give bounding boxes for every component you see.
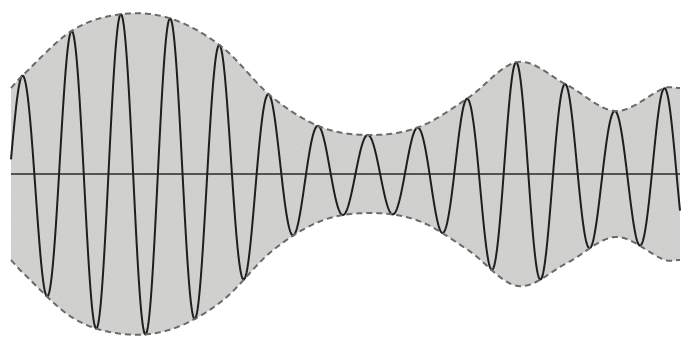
am-waveform-diagram: Amplitude-modulated waveform: [0, 0, 690, 343]
waveform-canvas: [0, 0, 690, 343]
